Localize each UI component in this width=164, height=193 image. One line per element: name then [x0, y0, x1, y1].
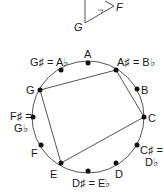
dot-c	[142, 115, 147, 120]
label-fsharp-1: F♯ =	[10, 110, 32, 122]
dot-f	[39, 143, 44, 148]
label-csharp-2: D♭	[145, 156, 158, 168]
dot-dsharp	[86, 169, 91, 174]
label-asharp: A♯ = B♭	[117, 56, 155, 68]
label-fsharp-2: G♭	[14, 122, 28, 134]
label-e: E	[50, 168, 57, 180]
label-g-top: G	[74, 21, 83, 33]
dot-a	[86, 61, 91, 66]
label-d: D	[115, 168, 123, 180]
dot-csharp	[135, 143, 140, 148]
quadrilateral-g-asharp-c-e	[40, 70, 144, 163]
label-c: C	[148, 112, 156, 124]
dot-gsharp	[59, 68, 64, 73]
label-g: G	[26, 84, 35, 96]
label-f-top: F	[116, 1, 124, 13]
label-b: B	[141, 84, 148, 96]
top-triangle-figure: G F	[74, 0, 124, 33]
dot-g	[38, 88, 43, 93]
dot-b	[135, 87, 140, 92]
dot-e	[59, 161, 64, 166]
label-f: F	[31, 147, 38, 159]
label-csharp-1: C♯ =	[140, 144, 163, 156]
pitch-circle-diagram: G F A A♯ = B♭ B C C♯ = D♭ D D♯ = E♭ E F …	[0, 0, 164, 193]
label-gsharp: G♯ = A♭	[30, 56, 68, 68]
dot-d	[114, 161, 119, 166]
label-a: A	[84, 48, 92, 60]
label-dsharp: D♯ = E♭	[72, 177, 110, 189]
dot-asharp	[114, 68, 119, 73]
